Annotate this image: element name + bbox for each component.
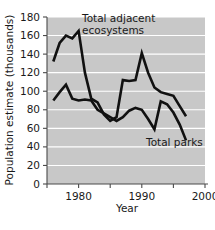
y-tick-label-60: 60	[27, 122, 40, 134]
line-chart: 020406080100120140160180 198019902000 To…	[0, 0, 215, 230]
parks-label: Total parks	[145, 136, 203, 148]
parks-label-line-0: Total parks	[145, 136, 203, 148]
y-tick-label-140: 140	[20, 48, 40, 60]
y-axis-title: Population estimate (thousands)	[3, 15, 15, 186]
chart-container: 020406080100120140160180 198019902000 To…	[0, 0, 215, 230]
y-axis-ticks-group: 020406080100120140160180	[20, 11, 47, 190]
x-tick-label-2000: 2000	[192, 190, 215, 202]
plot-background	[47, 17, 205, 184]
y-tick-label-120: 120	[20, 66, 40, 78]
y-tick-label-80: 80	[27, 103, 40, 115]
x-tick-label-1980: 1980	[65, 190, 92, 202]
ecosystems-label-line-0: Total adjacent	[81, 12, 155, 24]
y-tick-label-20: 20	[27, 159, 40, 171]
ecosystems-label-line-1: ecosystems	[82, 24, 144, 36]
x-axis-title: Year	[115, 202, 139, 214]
x-tick-label-1990: 1990	[128, 190, 155, 202]
y-tick-label-160: 160	[20, 29, 40, 41]
x-axis-ticks-group: 198019902000	[47, 184, 215, 202]
y-tick-label-180: 180	[20, 11, 40, 23]
y-tick-label-40: 40	[27, 140, 40, 152]
y-tick-label-0: 0	[33, 178, 40, 190]
y-tick-label-100: 100	[20, 85, 40, 97]
plot-background-group	[47, 17, 205, 184]
